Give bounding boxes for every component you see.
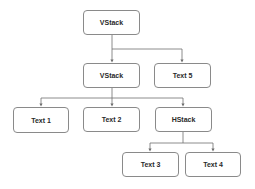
edge-root-to-text5 — [112, 49, 182, 61]
edge-vstack-to-hstack — [112, 98, 183, 105]
node-vstack: VStack — [83, 63, 140, 88]
edge-hstack-to-text4 — [183, 143, 213, 150]
node-label: Text 4 — [203, 161, 223, 168]
edge-vstack-to-text1 — [41, 98, 112, 105]
edge-hstack-to-text3 — [150, 132, 183, 150]
node-label: HStack — [172, 116, 196, 123]
node-root-vstack: VStack — [83, 10, 140, 35]
node-label: VStack — [100, 19, 123, 26]
node-text5: Text 5 — [154, 63, 211, 88]
node-text4: Text 4 — [185, 152, 241, 177]
node-text1: Text 1 — [13, 107, 69, 133]
node-label: Text 3 — [141, 161, 161, 168]
node-label: Text 2 — [102, 116, 122, 123]
node-label: VStack — [100, 72, 123, 79]
node-label: Text 1 — [31, 117, 51, 124]
node-label: Text 5 — [173, 72, 193, 79]
node-hstack: HStack — [155, 107, 212, 132]
node-text2: Text 2 — [83, 107, 140, 132]
node-text3: Text 3 — [122, 152, 179, 177]
